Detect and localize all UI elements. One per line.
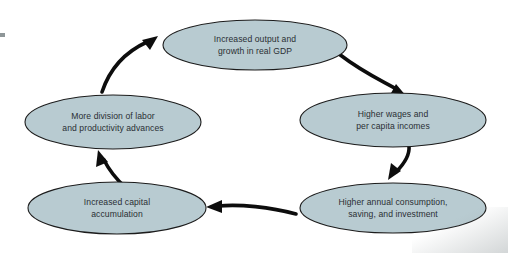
node-label-line2: accumulation [91, 209, 143, 219]
node-label-line1: Higher annual consumption, [338, 197, 447, 207]
arrow-consumption-to-capital [206, 200, 296, 214]
arrow-wages-to-consumption [388, 146, 409, 180]
arrow-path [102, 42, 147, 92]
node-label-line2: saving, and investment [348, 209, 438, 219]
arrow-labor-to-output [102, 36, 158, 92]
node-division-of-labor[interactable]: More division of labor and productivity … [25, 95, 201, 149]
node-shape[interactable] [300, 183, 486, 233]
node-label-line2: and productivity advances [62, 123, 163, 133]
diagram-canvas: Increased output and growth in real GDP … [0, 0, 508, 253]
growth-cycle-diagram: Increased output and growth in real GDP … [0, 0, 508, 253]
node-capital-accumulation[interactable]: Increased capital accumulation [28, 182, 206, 234]
node-label-line2: growth in real GDP [218, 46, 292, 56]
node-shape[interactable] [28, 182, 206, 234]
scan-edge-artifact [0, 33, 5, 37]
arrow-head [388, 163, 401, 180]
node-consumption-saving-investment[interactable]: Higher annual consumption, saving, and i… [300, 183, 486, 233]
node-label-line1: More division of labor [71, 111, 154, 121]
node-label-line2: per capita incomes [356, 121, 430, 131]
arrow-output-to-wages [339, 54, 407, 97]
arrow-path [339, 54, 398, 90]
arrow-path [218, 205, 296, 214]
node-label-line1: Increased capital [84, 197, 150, 207]
node-shape[interactable] [25, 95, 201, 149]
node-shape[interactable] [163, 20, 347, 70]
arrow-path [396, 146, 409, 172]
node-label-line1: Increased output and [214, 34, 296, 44]
node-label-line1: Higher wages and [358, 109, 429, 119]
arrow-head [206, 200, 222, 213]
node-output-growth[interactable]: Increased output and growth in real GDP [163, 20, 347, 70]
node-wages-incomes[interactable]: Higher wages and per capita incomes [300, 93, 486, 147]
node-shape[interactable] [300, 93, 486, 147]
